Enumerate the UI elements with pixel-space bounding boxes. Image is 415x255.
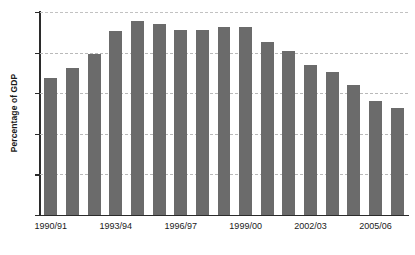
x-tick-label-2005-06: 2005/06 (359, 221, 392, 231)
bar (369, 101, 382, 215)
bar (218, 27, 231, 215)
bar (326, 72, 339, 215)
y-tick-mark-3 (35, 174, 39, 175)
x-tick-label-1993-94: 1993/94 (99, 221, 132, 231)
y-tick-mark-0 (35, 215, 39, 216)
x-tick-label-1990-91: 1990/91 (35, 221, 68, 231)
gridline-15 (40, 12, 408, 13)
bar-chart: Percentage of GDP 036912151990/911993/94… (0, 0, 415, 255)
y-tick-mark-15 (35, 12, 39, 13)
bar (347, 85, 360, 215)
bar (109, 31, 122, 215)
bar (261, 42, 274, 215)
bar (391, 108, 404, 215)
bar (153, 24, 166, 215)
x-tick-label-1999-00: 1999/00 (229, 221, 262, 231)
y-tick-mark-12 (35, 53, 39, 54)
bar (239, 27, 252, 215)
bar (88, 54, 101, 215)
bar (44, 78, 57, 215)
bar (66, 68, 79, 216)
y-tick-mark-6 (35, 134, 39, 135)
bar (196, 30, 209, 215)
bar (304, 65, 317, 215)
plot-area (40, 12, 408, 215)
bar (131, 21, 144, 215)
y-tick-mark-9 (35, 93, 39, 94)
bar (174, 30, 187, 215)
y-axis-title: Percentage of GDP (9, 53, 19, 173)
x-tick-label-2002-03: 2002/03 (294, 221, 327, 231)
x-tick-label-1996-97: 1996/97 (164, 221, 197, 231)
bar (282, 51, 295, 215)
